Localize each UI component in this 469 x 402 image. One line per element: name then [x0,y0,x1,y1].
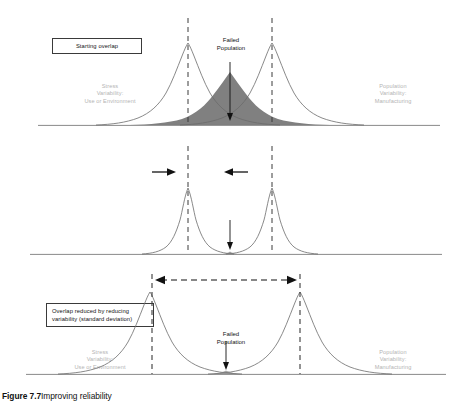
population-label-line2: Variability: [340,90,446,97]
span-arrow-head-right [287,276,297,284]
failed-label-line1: Failed [203,37,259,45]
arrow-inward-left-head [167,168,176,176]
reduced-variability-panel: Overlap reduced by reducing variability … [0,140,469,268]
caption-label: Figure 7.7 [2,391,41,401]
span-arrow-head-left [155,276,165,284]
callout-line-1: Starting overlap [58,42,136,50]
moved-means-panel: Overlap reduced by moving distribution m… [0,268,469,386]
panel-3-plot [0,268,469,386]
starting-overlap-panel: Starting overlap Stress Variability: Use… [0,0,469,140]
panel-1-plot [0,0,469,140]
stress-distribution-curve [58,292,242,374]
population-label-line3: Manufacturing [340,98,446,105]
callout-starting-overlap: Starting overlap [52,38,142,54]
population-label-line1: Population [340,83,446,90]
arrow-inward-right-head [224,168,233,176]
population-side-label-1: Population Variability: Manufacturing [340,83,446,105]
failed-population-label-1: Failed Population [203,37,259,52]
figure-improving-reliability: Starting overlap Stress Variability: Use… [0,0,469,402]
stress-label-line2: Variability: [56,90,164,97]
failed-label-line2: Population [203,45,259,53]
stress-label-line3: Use or Environment [56,98,164,105]
failed-population-arrow-head [223,362,229,370]
stress-label-line1: Stress [56,83,164,90]
panel-2-plot [0,140,469,268]
stress-side-label-1: Stress Variability: Use or Environment [56,83,164,105]
caption-text: Improving reliability [41,391,112,401]
failed-population-arrow-head [227,242,233,250]
figure-caption: Figure 7.7Improving reliability [2,391,112,401]
